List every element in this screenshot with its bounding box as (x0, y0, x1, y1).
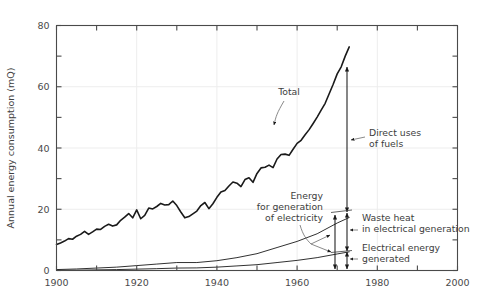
x-tick-label: 1920 (125, 277, 149, 288)
annotation-waste-heat-line1: Waste heat (362, 212, 415, 223)
y-tick-label: 60 (37, 81, 49, 92)
y-axis-title: Annual energy consumption (mQ) (5, 68, 16, 229)
x-tick-label: 1940 (205, 277, 229, 288)
annotation-energy-for-generation-line3: of electricity (265, 212, 323, 223)
annotation-electrical-energy-line2: generated (362, 253, 410, 264)
y-tick-labels: 020406080 (37, 20, 49, 276)
y-axis-title-text: Annual energy consumption (mQ) (5, 68, 16, 229)
x-tick-labels: 190019201940196019802000 (44, 277, 469, 288)
annotation-total: Total (277, 86, 300, 97)
annotations: TotalDirect usesof fuelsEnergyfor genera… (257, 86, 470, 264)
y-tick-label: 0 (43, 265, 49, 276)
y-tick-label: 20 (37, 204, 49, 215)
leader-total (274, 101, 284, 125)
annotation-waste-heat-line2: in electrical generation (362, 223, 470, 234)
x-tick-label: 1960 (285, 277, 309, 288)
annotation-electrical-energy-line1: Electrical energy (362, 242, 441, 253)
series-line-energy-for-generation-of-electricity (57, 218, 350, 270)
x-tick-label: 2000 (445, 277, 469, 288)
chart-canvas: 020406080190019201940196019802000Annual … (0, 0, 479, 305)
leader-energy-for-generation-c (311, 235, 330, 244)
measurement-arrows (331, 67, 352, 269)
annotation-direct-uses-of-fuels-line1: Direct uses (369, 127, 421, 138)
x-tick-label: 1980 (365, 277, 389, 288)
x-tick-label: 1900 (44, 277, 68, 288)
leader-energy-for-generation-b (311, 244, 331, 252)
leader-direct-uses-of-fuels (351, 137, 365, 140)
energy-consumption-chart: 020406080190019201940196019802000Annual … (0, 0, 479, 305)
annotation-energy-for-generation-line1: Energy (290, 190, 323, 201)
annotation-direct-uses-of-fuels-line2: of fuels (369, 138, 403, 149)
y-tick-label: 80 (37, 20, 49, 31)
ref-tick-generation-top (331, 210, 352, 213)
leader-energy-for-generation-a (300, 225, 311, 244)
annotation-energy-for-generation-line2: for generation (257, 201, 323, 212)
y-tick-label: 40 (37, 143, 49, 154)
